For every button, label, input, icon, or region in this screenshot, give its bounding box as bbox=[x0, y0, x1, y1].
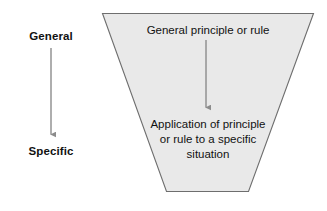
axis-label-general: General bbox=[0, 30, 111, 42]
funnel-bottom-line-1: Application of principle bbox=[150, 118, 265, 130]
funnel-bottom-line-3: situation bbox=[187, 148, 230, 160]
diagram-canvas: General Specific General principle or ru… bbox=[0, 0, 327, 211]
funnel-top-text: General principle or rule bbox=[108, 24, 308, 36]
funnel-bottom-text: Application of principle or rule to a sp… bbox=[108, 117, 308, 163]
axis-label-specific: Specific bbox=[0, 145, 111, 157]
funnel-trapezoid bbox=[103, 14, 314, 192]
funnel-bottom-line-2: or rule to a specific bbox=[160, 133, 257, 145]
